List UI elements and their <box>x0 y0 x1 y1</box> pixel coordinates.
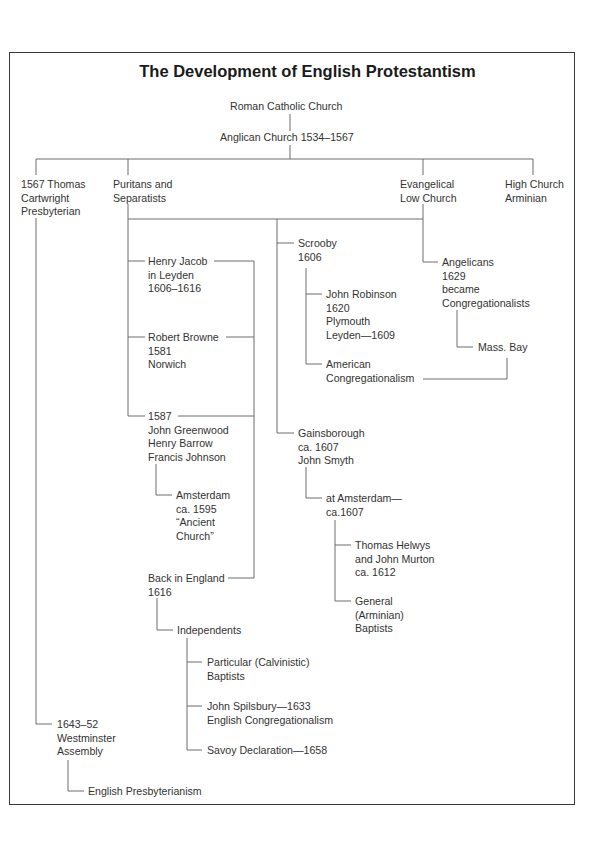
node-john-robinson: John Robinson 1620 Plymouth Leyden—1609 <box>326 288 397 342</box>
node-english-presbyterianism: English Presbyterianism <box>88 785 202 799</box>
node-helwys-murton: Thomas Helwys and John Murton ca. 1612 <box>355 539 435 580</box>
node-independents: Independents <box>177 624 241 638</box>
node-back-in-england: Back in England 1616 <box>148 572 225 599</box>
node-anglican-church: Anglican Church 1534–1567 <box>220 131 354 145</box>
node-cartwright-presbyterian: 1567 Thomas Cartwright Presbyterian <box>21 178 86 219</box>
node-mass-bay: Mass. Bay <box>478 341 527 355</box>
node-robert-browne: Robert Browne 1581 Norwich <box>148 331 219 372</box>
node-gainsborough: Gainsborough ca. 1607 John Smyth <box>298 427 365 468</box>
node-roman-catholic-church: Roman Catholic Church <box>230 100 342 114</box>
node-westminster-assembly: 1643–52 Westminster Assembly <box>57 718 116 759</box>
node-particular-baptists: Particular (Calvinistic) Baptists <box>207 656 309 683</box>
node-1587-greenwood: 1587 John Greenwood Henry Barrow Francis… <box>148 410 229 464</box>
node-general-baptists: General (Arminian) Baptists <box>355 595 404 636</box>
node-henry-jacob: Henry Jacob in Leyden 1606–1616 <box>148 255 207 296</box>
node-amsterdam-ancient-church: Amsterdam ca. 1595 “Ancient Church” <box>176 489 230 543</box>
node-american-congregationalism: American Congregationalism <box>326 358 414 385</box>
node-at-amsterdam: at Amsterdam— ca.1607 <box>326 492 402 519</box>
node-high-church-arminian: High Church Arminian <box>505 178 564 205</box>
node-puritans-separatists: Puritans and Separatists <box>113 178 172 205</box>
node-john-spilsbury: John Spilsbury—1633 English Congregation… <box>207 700 333 727</box>
node-scrooby: Scrooby 1606 <box>298 237 337 264</box>
node-evangelical-low-church: Evangelical Low Church <box>400 178 457 205</box>
node-savoy-declaration: Savoy Declaration—1658 <box>207 744 327 758</box>
node-angelicans: Angelicans 1629 became Congregationalist… <box>442 256 530 310</box>
